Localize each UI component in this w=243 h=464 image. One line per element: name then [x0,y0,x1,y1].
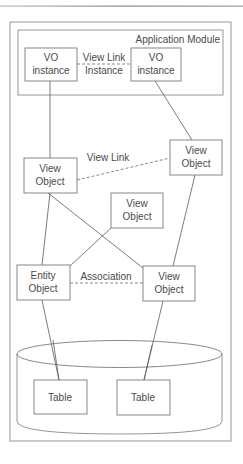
node-entity-object: Entity Object [17,265,70,300]
svg-text:VO: VO [44,52,59,63]
node-vo-instance-left: VO instance [25,48,77,81]
edge-voinstance-right-to-viewobject-right [155,81,192,140]
edge-viewobject-right-to-viewobject-bottom [173,175,195,266]
svg-text:Object: Object [36,176,65,187]
adf-architecture-diagram: Application Module View Link Instance Vi… [0,0,243,464]
node-table-right: Table [117,380,170,415]
edge-entity-to-table-left [42,300,59,380]
svg-text:Object: Object [182,158,211,169]
svg-text:Object: Object [155,284,184,295]
svg-text:View: View [126,198,148,209]
svg-text:Table: Table [131,392,155,403]
node-vo-instance-right: VO instance [131,48,181,81]
edge-viewobject-left-to-entity [42,193,50,265]
node-view-object-right: View Object [170,140,222,175]
svg-text:instance: instance [32,65,70,76]
view-link-label: View Link [87,152,131,163]
svg-text:Object: Object [123,211,152,222]
svg-text:Object: Object [29,283,58,294]
svg-text:Entity: Entity [30,270,55,281]
svg-text:instance: instance [137,65,175,76]
view-link-instance-label-line2: Instance [85,65,123,76]
edge-entity-to-table-left-overlay [53,340,59,380]
node-view-object-bottom: View Object [143,266,195,301]
svg-text:View: View [39,163,61,174]
node-table-left: Table [34,380,87,414]
association-label: Association [80,271,131,282]
edge-viewobject-middle-to-entity [70,228,111,266]
node-view-object-left: View Object [24,158,77,193]
outer-frame [10,22,231,441]
node-view-object-middle: View Object [111,193,163,228]
svg-text:View: View [185,145,207,156]
svg-text:VO: VO [149,52,164,63]
edge-viewobject-bottom-to-table-right-overlay [144,345,152,380]
view-link-instance-label-line1: View Link [83,52,127,63]
top-rule [0,6,243,7]
svg-text:Table: Table [48,392,72,403]
svg-text:View: View [158,271,180,282]
application-module-label: Application Module [136,34,221,45]
